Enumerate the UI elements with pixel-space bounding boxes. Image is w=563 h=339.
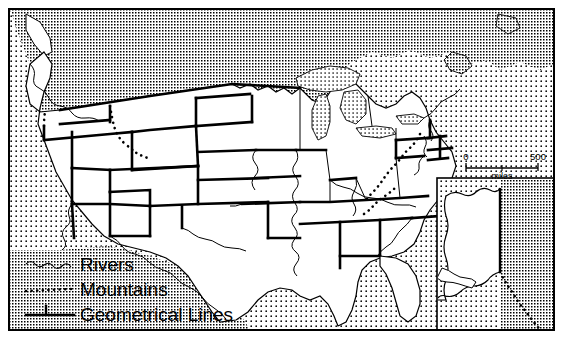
alaska-inset bbox=[436, 178, 555, 338]
us-boundary-map: 0 500 miles Rivers Mountains Geometrical… bbox=[0, 0, 563, 339]
scale-start-label: 0 bbox=[463, 151, 468, 162]
legend-label-rivers: Rivers bbox=[80, 254, 134, 275]
scale-unit-label: miles bbox=[491, 171, 513, 181]
map-figure: 0 500 miles Rivers Mountains Geometrical… bbox=[0, 0, 563, 339]
map-body: 0 500 miles Rivers Mountains Geometrical… bbox=[9, 9, 555, 338]
legend-label-geometrical: Geometrical Lines bbox=[80, 304, 233, 325]
legend-label-mountains: Mountains bbox=[80, 279, 168, 300]
scale-end-label: 500 bbox=[530, 151, 546, 162]
